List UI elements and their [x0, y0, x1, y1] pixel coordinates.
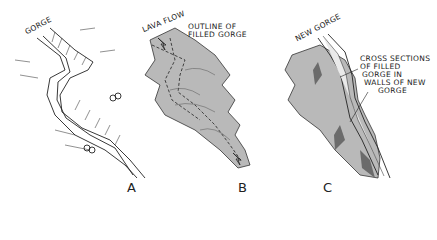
panel-letter-a: A [127, 180, 136, 195]
label-gorge-2: GORGE [378, 87, 407, 95]
panel-a-gorge [15, 28, 145, 178]
panel-letter-c: C [323, 180, 332, 195]
label-filled-gorge: FILLED GORGE [188, 31, 247, 39]
panel-letter-b: B [238, 180, 247, 195]
panel-b-lava-flow [145, 28, 250, 168]
